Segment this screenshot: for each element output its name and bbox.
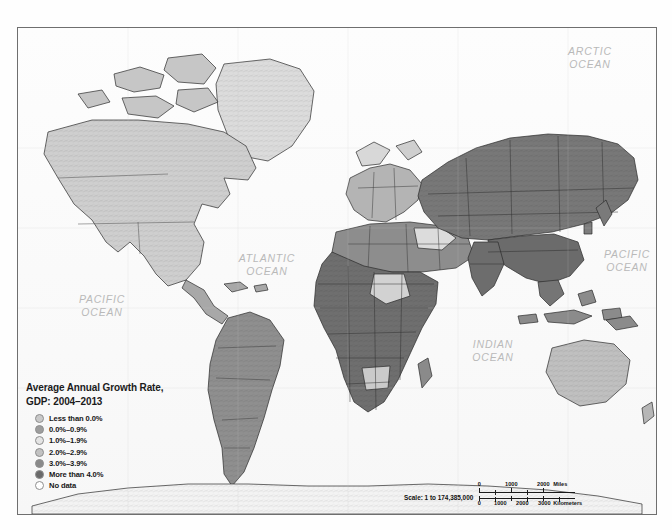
- legend-swatch-icon: [35, 448, 44, 457]
- legend: Average Annual Growth Rate, GDP: 2004–20…: [26, 381, 206, 491]
- scale-tick-label: 1000: [494, 500, 506, 506]
- legend-title-line-1: Average Annual Growth Rate,: [26, 381, 197, 395]
- legend-item[interactable]: No data: [35, 480, 206, 491]
- legend-item[interactable]: 3.0%–3.9%: [35, 458, 206, 469]
- legend-item-label: More than 4.0%: [49, 470, 103, 479]
- scale-ratio-label: Scale: 1 to 174,385,000: [404, 494, 473, 501]
- ocean-label-arctic-ocean: ARCTIC OCEAN: [553, 45, 627, 70]
- ocean-label-indian-ocean: INDIAN OCEAN: [456, 338, 530, 363]
- legend-item[interactable]: 2.0%–2.9%: [35, 447, 206, 458]
- legend-swatch-icon: [35, 436, 44, 445]
- scale-row-miles: 0 1000 2000 Miles: [479, 483, 597, 496]
- legend-item[interactable]: Less than 0.0%: [35, 413, 206, 424]
- scale-tick-label: 3000: [538, 500, 550, 506]
- scale-bars: 0 1000 2000 Miles 0 10: [479, 483, 597, 509]
- scale-unit-miles: Miles: [553, 481, 567, 487]
- map-page: ARCTIC OCEAN PACIFIC OCEAN ATLANTIC OCEA…: [0, 0, 672, 530]
- scale-tick-label: 2000: [537, 481, 549, 487]
- legend-items: Less than 0.0% 0.0%–0.9% 1.0%–1.9% 2.0%–…: [26, 413, 206, 491]
- scale-tick-label: 0: [478, 500, 481, 506]
- legend-item[interactable]: More than 4.0%: [35, 469, 206, 480]
- scale-bar: Scale: 1 to 174,385,000 0 1000 2000 Mile…: [404, 483, 597, 509]
- legend-item-label: 3.0%–3.9%: [49, 459, 87, 468]
- scale-tick-label: 2000: [516, 500, 528, 506]
- ocean-label-pacific-ocean-west: PACIFIC OCEAN: [65, 293, 139, 318]
- scale-row-kilometers: 0 1000 2000 3000 Kilometers: [479, 496, 597, 509]
- legend-swatch-icon: [35, 414, 44, 423]
- legend-title-line-2: GDP: 2004–2013: [26, 395, 197, 409]
- legend-swatch-icon: [35, 459, 44, 468]
- scale-tick-label: 1000: [505, 481, 517, 487]
- legend-swatch-icon: [35, 425, 44, 434]
- ocean-label-pacific-ocean-east: PACIFIC OCEAN: [590, 248, 657, 273]
- legend-item-label: 2.0%–2.9%: [49, 448, 87, 457]
- legend-item[interactable]: 1.0%–1.9%: [35, 435, 206, 446]
- legend-item[interactable]: 0.0%–0.9%: [35, 424, 206, 435]
- ocean-label-atlantic-ocean: ATLANTIC OCEAN: [225, 252, 309, 277]
- legend-item-label: No data: [49, 481, 76, 490]
- legend-swatch-icon: [35, 470, 44, 479]
- legend-item-label: Less than 0.0%: [49, 414, 102, 423]
- legend-swatch-icon: [35, 481, 44, 490]
- legend-item-label: 1.0%–1.9%: [49, 436, 87, 445]
- scale-tick-label: 0: [478, 481, 481, 487]
- scale-unit-kilometers: Kilometers: [553, 500, 582, 506]
- legend-title: Average Annual Growth Rate, GDP: 2004–20…: [26, 381, 197, 408]
- legend-item-label: 0.0%–0.9%: [49, 425, 87, 434]
